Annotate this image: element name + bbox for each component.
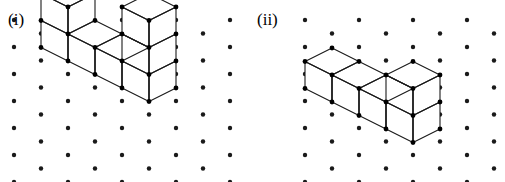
cube-vertex xyxy=(120,32,125,37)
lattice-dot xyxy=(492,31,496,35)
lattice-dot xyxy=(228,180,232,182)
lattice-dot xyxy=(66,126,70,130)
lattice-dot xyxy=(39,85,43,89)
cube-vertex xyxy=(411,86,416,91)
lattice-dot xyxy=(330,112,334,116)
lattice-dot xyxy=(384,58,388,62)
lattice-dot xyxy=(384,166,388,170)
lattice-dot xyxy=(438,139,442,143)
lattice-dot xyxy=(303,126,307,130)
lattice-dot xyxy=(330,166,334,170)
lattice-dot xyxy=(147,139,151,143)
lattice-dot xyxy=(411,180,415,182)
lattice-dot xyxy=(120,153,124,157)
lattice-dot xyxy=(465,45,469,49)
lattice-dot xyxy=(120,126,124,130)
cube-faces xyxy=(41,0,176,102)
cube-vertex xyxy=(174,86,179,91)
figure-board: (i) (ii) xyxy=(0,0,505,182)
cube-vertex xyxy=(303,86,308,91)
panel-label-ii: (ii) xyxy=(257,11,278,28)
lattice-dot xyxy=(384,31,388,35)
cube-vertex xyxy=(174,5,179,10)
lattice-dot xyxy=(438,58,442,62)
lattice-dot xyxy=(93,85,97,89)
cube-vertex xyxy=(411,59,416,64)
cube-vertex xyxy=(357,59,362,64)
lattice-dot xyxy=(39,139,43,143)
lattice-dot xyxy=(384,139,388,143)
lattice-dot xyxy=(12,72,16,76)
lattice-dot xyxy=(201,112,205,116)
lattice-dot xyxy=(492,112,496,116)
cube-vertex xyxy=(357,86,362,91)
lattice-dot xyxy=(492,166,496,170)
lattice-dot xyxy=(201,85,205,89)
lattice-dot xyxy=(357,45,361,49)
lattice-dot xyxy=(411,45,415,49)
lattice-dot xyxy=(303,180,307,182)
lattice-dot xyxy=(174,180,178,182)
figure-panel-ii: (ii) xyxy=(252,0,505,182)
lattice-dot xyxy=(492,139,496,143)
cube-vertex xyxy=(120,86,125,91)
cube-vertex xyxy=(384,73,389,78)
lattice-dot xyxy=(39,58,43,62)
lattice-dot xyxy=(228,126,232,130)
lattice-dot xyxy=(66,99,70,103)
cube-vertex xyxy=(330,46,335,51)
lattice-dot xyxy=(12,45,16,49)
lattice-dot xyxy=(228,45,232,49)
lattice-dot xyxy=(174,153,178,157)
cube-vertex xyxy=(357,113,362,118)
figure-panel-i: (i) xyxy=(0,0,253,182)
isometric-diagram-i xyxy=(0,0,253,182)
cube-vertex xyxy=(330,73,335,78)
lattice-dot xyxy=(303,45,307,49)
cube-vertex xyxy=(411,113,416,118)
lattice-dot xyxy=(411,18,415,22)
cube-vertex xyxy=(330,100,335,105)
lattice-dot xyxy=(66,72,70,76)
lattice-dot xyxy=(228,18,232,22)
cube-vertex xyxy=(384,100,389,105)
lattice-dot xyxy=(174,99,178,103)
cube-vertex xyxy=(120,59,125,64)
cube-vertex xyxy=(147,45,152,50)
lattice-dot xyxy=(201,139,205,143)
cube-vertex xyxy=(93,45,98,50)
cube-vertex xyxy=(66,32,71,37)
lattice-dot xyxy=(330,31,334,35)
cube-vertex xyxy=(174,32,179,37)
lattice-dot xyxy=(330,139,334,143)
lattice-dot xyxy=(357,153,361,157)
lattice-dot xyxy=(120,99,124,103)
lattice-dot xyxy=(93,139,97,143)
cube-vertex xyxy=(93,72,98,77)
cube-vertex xyxy=(147,72,152,77)
isometric-diagram-ii xyxy=(252,0,505,182)
lattice-dot xyxy=(147,112,151,116)
cube-vertex xyxy=(438,73,443,78)
lattice-dot xyxy=(66,180,70,182)
lattice-dot xyxy=(357,126,361,130)
cube-vertex xyxy=(66,5,71,10)
lattice-dot xyxy=(39,166,43,170)
cube-vertex xyxy=(303,59,308,64)
panel-label-i: (i) xyxy=(8,11,24,28)
cube-vertex xyxy=(120,5,125,10)
cube-vertex xyxy=(66,59,71,64)
lattice-dot xyxy=(438,31,442,35)
lattice-dot xyxy=(438,166,442,170)
lattice-dot xyxy=(228,153,232,157)
cube-vertex xyxy=(147,99,152,104)
lattice-dot xyxy=(357,18,361,22)
lattice-dot xyxy=(303,153,307,157)
cube-vertex xyxy=(93,18,98,23)
cube-vertex xyxy=(174,59,179,64)
lattice-dot xyxy=(228,72,232,76)
lattice-dot xyxy=(93,112,97,116)
lattice-dot xyxy=(201,58,205,62)
lattice-dot xyxy=(201,31,205,35)
lattice-dot xyxy=(39,112,43,116)
